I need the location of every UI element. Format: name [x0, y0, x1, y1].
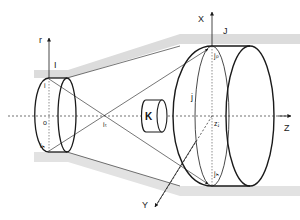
label-zj: zⱼ — [214, 120, 219, 127]
small-cylinder — [35, 78, 76, 152]
z-axis-label: Z — [284, 123, 290, 133]
label-J: J — [223, 26, 228, 36]
label-j: j — [190, 92, 193, 102]
y-axis-arrow — [155, 141, 196, 207]
y-axis-label: Y — [142, 200, 148, 210]
label-K: K — [145, 111, 153, 122]
r-axis-label: r — [39, 35, 42, 45]
label-i: i — [44, 82, 46, 89]
label-jh: jₕ — [213, 170, 219, 178]
projection-diagram: r I i o iₕ iₜ K X J jₚ j zⱼ jₕ Z Y — [0, 0, 300, 220]
x-axis-label: X — [198, 14, 204, 24]
label-o: o — [43, 119, 47, 126]
label-ih: iₕ — [40, 142, 45, 149]
label-I: I — [54, 60, 57, 70]
shaded-band-top — [34, 34, 300, 78]
label-jp: jₚ — [213, 52, 219, 60]
shaded-band-bottom — [34, 152, 300, 196]
label-it: iₜ — [103, 121, 107, 128]
